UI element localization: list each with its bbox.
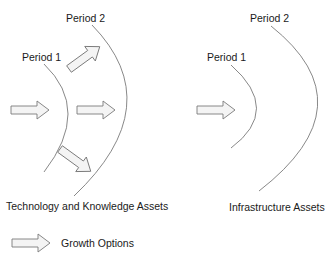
left-panel-caption: Technology and Knowledge Assets	[6, 201, 168, 212]
left-growth-arrow-straight-icon	[77, 101, 115, 119]
left-period1-label: Period 1	[22, 52, 61, 63]
legend-label: Growth Options	[61, 238, 134, 249]
legend-arrow-icon	[12, 234, 50, 252]
left-input-arrow-icon	[11, 101, 49, 119]
right-period1-label: Period 1	[207, 52, 246, 63]
left-growth-arrow-up-icon	[64, 39, 105, 76]
right-panel-caption: Infrastructure Assets	[229, 202, 325, 213]
left-period2-label: Period 2	[66, 13, 105, 24]
right-period1-arc	[231, 65, 257, 148]
right-period2-label: Period 2	[250, 13, 289, 24]
right-input-arrow-icon	[197, 101, 235, 119]
right-period2-arc	[259, 26, 318, 191]
left-growth-arrow-down-icon	[55, 142, 96, 179]
